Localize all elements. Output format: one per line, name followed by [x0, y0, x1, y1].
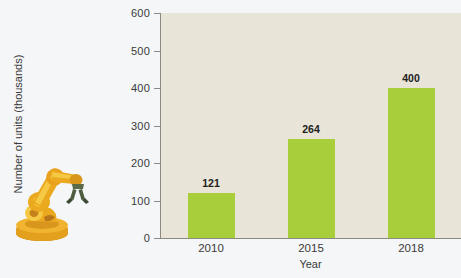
y-tick-label-text: 400: [110, 82, 150, 94]
y-tick-label-text: 500: [110, 45, 150, 57]
bar: [388, 88, 435, 238]
y-tick-mark: [154, 88, 160, 89]
y-tick-label: 300: [110, 120, 150, 132]
y-tick-mark: [154, 51, 160, 52]
y-tick-label-text: 200: [110, 157, 150, 169]
y-tick-label: 500: [110, 45, 150, 57]
bar: [188, 193, 235, 238]
y-tick-label: 0: [110, 232, 150, 244]
y-tick-label: 400: [110, 82, 150, 94]
y-tick-mark: [154, 201, 160, 202]
industrial-robot-arm-illustration: [8, 155, 94, 243]
y-tick-mark: [154, 126, 160, 127]
y-tick-label: 600: [110, 7, 150, 19]
bar-value-label: 121: [176, 177, 246, 189]
bar: [288, 139, 335, 238]
y-tick-mark: [154, 163, 160, 164]
bar-value-label: 264: [276, 123, 346, 135]
x-tick-label: 2010: [176, 242, 246, 254]
y-tick-mark: [154, 13, 160, 14]
y-axis-line: [160, 13, 161, 239]
bar-chart-figure: 0100200300400500600 Number of units (tho…: [0, 0, 461, 278]
x-axis-label: Year: [160, 258, 461, 270]
x-tick-label: 2018: [376, 242, 446, 254]
x-tick-label: 2015: [276, 242, 346, 254]
y-tick-label: 200: [110, 157, 150, 169]
y-tick-mark: [154, 238, 160, 239]
y-tick-label-text: 600: [110, 7, 150, 19]
y-tick-label-text: 300: [110, 120, 150, 132]
y-tick-label-text: 0: [110, 232, 150, 244]
x-axis-line: [160, 238, 461, 239]
bar-value-label: 400: [376, 72, 446, 84]
y-tick-label: 100: [110, 195, 150, 207]
y-tick-label-text: 100: [110, 195, 150, 207]
